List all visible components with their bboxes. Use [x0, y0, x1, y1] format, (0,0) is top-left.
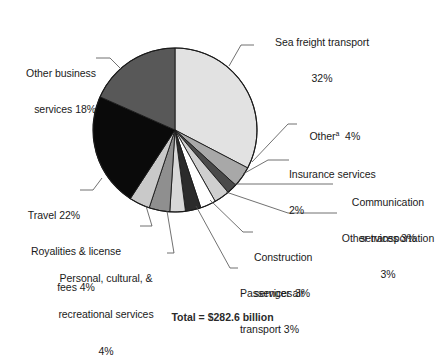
leader-line-construction: [210, 200, 253, 232]
label-insurance-services-value: 2%: [289, 204, 361, 216]
label-other: Othera 4%: [298, 118, 408, 155]
label-sea-freight-transport-line1: Sea freight transport: [228, 36, 416, 48]
label-other-business-services-line1: Other business: [0, 67, 96, 79]
label-other-text: Other: [309, 130, 335, 142]
label-sea-freight-transport: Sea freight transport 32%: [228, 11, 416, 109]
leader-line-passenger-air: [196, 206, 238, 268]
label-other-transportation-value: 3%: [331, 268, 445, 280]
label-passenger-air-transport-line2: transport 3%: [240, 323, 344, 335]
leader-line-travel: [80, 178, 102, 190]
label-personal-cultural-value: 4%: [45, 345, 167, 357]
label-other-business-services: Other business services 18%: [0, 42, 96, 140]
label-insurance-services-line1: Insurance services: [289, 168, 409, 180]
label-personal-cultural-recreational-services: Personal, cultural, & recreational servi…: [45, 247, 167, 359]
leader-line-other-business: [96, 58, 121, 69]
label-other-percent: 4%: [345, 130, 360, 142]
label-other-business-services-line2: services 18%: [0, 103, 96, 115]
label-sea-freight-transport-value: 32%: [228, 72, 416, 84]
chart-total-caption: Total = $282.6 billion: [0, 311, 445, 321]
leader-line-personal: [167, 211, 174, 253]
leader-line-royalties: [140, 206, 152, 226]
label-personal-cultural-line1: Personal, cultural, &: [45, 272, 167, 284]
label-insurance-services: Insurance services 2%: [289, 143, 409, 241]
